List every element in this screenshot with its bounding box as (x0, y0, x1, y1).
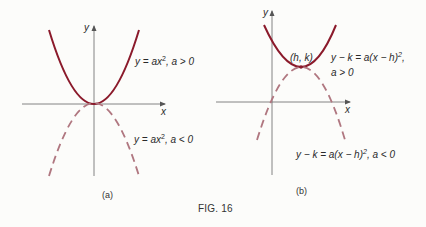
equation-condition: , a > 0 (166, 56, 194, 67)
panel-b-x-axis-label: x (345, 104, 350, 116)
equation-rhs: = ax (142, 134, 161, 145)
panel-a-downward-equation: y = ax2, a < 0 (134, 134, 193, 146)
panel-b-downward-equation: y − k = a(x − h)2, a < 0 (296, 149, 395, 161)
vertex-label: (h, k) (290, 52, 313, 64)
equation-main: y − k = a(x − h) (331, 52, 398, 63)
panel-a-x-axis-label: x (161, 106, 166, 118)
equation-lhs: y (135, 56, 140, 67)
equation-main: y − k = a(x − h) (296, 149, 363, 160)
equation-suffix: , (402, 52, 405, 63)
panel-a-y-axis-label: y (84, 22, 89, 34)
equation-rhs: = ax (143, 56, 162, 67)
panel-b-y-axis-label: y (263, 7, 268, 19)
equation-lhs: y (134, 134, 139, 145)
panel-a (22, 26, 165, 176)
vertex-point (299, 65, 303, 69)
figure-canvas (0, 0, 426, 227)
panel-a-upward-equation: y = ax2, a > 0 (135, 56, 194, 68)
figure-caption: FIG. 16 (198, 203, 233, 215)
panel-b-upward-condition: a > 0 (331, 67, 354, 79)
panel-b-sublabel: (b) (296, 185, 307, 197)
equation-condition: , a < 0 (367, 149, 395, 160)
equation-condition: , a < 0 (165, 134, 193, 145)
panel-a-sublabel: (a) (102, 189, 113, 201)
panel-b-upward-equation: y − k = a(x − h)2, (331, 52, 405, 64)
